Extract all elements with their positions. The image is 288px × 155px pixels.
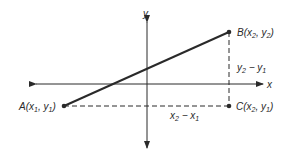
vertical-difference-label: y2 − y1 [236,62,266,74]
point-c [227,104,232,109]
point-a-label: A(x1, y1) [18,101,56,113]
point-a [62,104,67,109]
y-axis-label: y [142,8,149,19]
point-b-label: B(x2, y2) [237,27,274,39]
point-c-label: C(x2, y1) [236,101,273,113]
x-axis-label: x [266,79,273,90]
coordinate-diagram: x y A(x1, y1) B(x2, y2) C(x2, y1) y2 − y… [0,0,288,155]
horizontal-difference-label: x2 − x1 [169,110,199,122]
point-b [227,30,232,35]
